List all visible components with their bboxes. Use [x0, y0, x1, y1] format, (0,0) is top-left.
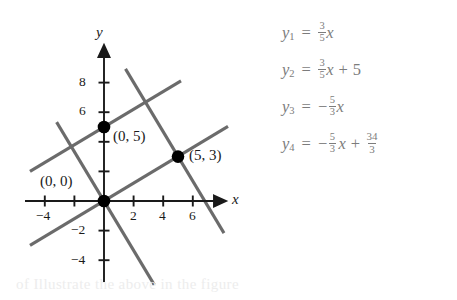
equation-y4-constant-fraction: 34 3	[366, 131, 379, 154]
y-axis-arrow	[99, 45, 110, 57]
equation-y1: y1 = 3 5 x	[282, 14, 457, 51]
equation-y4-coefficient-fraction: 5 3	[329, 132, 336, 154]
equation-y3-negative-sign: −	[318, 97, 327, 117]
x-axis-label: x	[232, 191, 239, 208]
equation-y2-operator: +	[338, 60, 347, 80]
equation-y3-variable: y	[282, 97, 289, 117]
equation-y2-relation: =	[302, 60, 311, 80]
fraction-numerator: 3	[318, 58, 325, 69]
equation-y2-coefficient-fraction: 3 5	[318, 58, 325, 80]
point-label-0-5: (0, 5)	[113, 128, 146, 145]
fraction-numerator: 3	[318, 21, 325, 32]
point-label-origin: (0, 0)	[40, 173, 73, 190]
page-bleed-through-text: of Illustrate the above in the figure	[16, 276, 446, 298]
equation-y1-subscript: 1	[289, 31, 294, 42]
equation-y4-variable: y	[282, 134, 289, 154]
fraction-numerator: 34	[366, 131, 379, 142]
y-axis-label: y	[96, 24, 103, 41]
fraction-denominator: 5	[318, 32, 325, 44]
y-tick-label-neg2: −2	[71, 222, 85, 238]
equation-y4-operator: +	[351, 134, 360, 154]
equation-y3-term-variable: x	[336, 97, 343, 117]
x-tick-label-6: 6	[189, 208, 196, 224]
equation-list: y1 = 3 5 x y2 = 3 5 x + 5 y3 = − 5 3 x y…	[282, 14, 457, 162]
equation-y2-subscript: 2	[289, 68, 294, 79]
fraction-numerator: 5	[329, 132, 336, 143]
point-origin	[98, 195, 111, 208]
fraction-denominator: 3	[368, 143, 376, 155]
equation-y4-term-variable: x	[338, 134, 345, 154]
equation-y3-relation: =	[302, 97, 311, 117]
point-label-5-3: (5, 3)	[189, 147, 222, 164]
equation-y3-coefficient-fraction: 5 3	[329, 95, 336, 117]
x-tick-label-4: 4	[159, 208, 166, 224]
fraction-denominator: 3	[329, 143, 336, 155]
equation-y3-subscript: 3	[289, 105, 294, 116]
equation-y2-variable: y	[282, 60, 289, 80]
x-tick-label-2: 2	[130, 208, 137, 224]
y-tick-label-8: 8	[79, 74, 86, 90]
equation-y4-negative-sign: −	[318, 134, 327, 154]
point-0-5	[98, 121, 111, 134]
equation-y1-term-variable: x	[326, 23, 333, 43]
equation-y1-relation: =	[302, 23, 311, 43]
equation-y1-coefficient-fraction: 3 5	[318, 21, 325, 43]
fraction-denominator: 5	[318, 69, 325, 81]
equation-y2-constant: 5	[353, 60, 361, 80]
point-5-3	[172, 150, 185, 163]
equation-y2: y2 = 3 5 x + 5	[282, 51, 457, 88]
equation-y4-subscript: 4	[289, 142, 294, 153]
equation-y4: y4 = − 5 3 x + 34 3	[282, 125, 457, 162]
x-tick-label-neg4: −4	[36, 208, 50, 224]
equation-y4-relation: =	[302, 134, 311, 154]
equation-y3: y3 = − 5 3 x	[282, 88, 457, 125]
y-tick-label-6: 6	[79, 103, 86, 119]
tick-marks	[45, 83, 193, 261]
fraction-denominator: 3	[329, 106, 336, 118]
equation-y2-term-variable: x	[326, 60, 333, 80]
fraction-numerator: 5	[329, 95, 336, 106]
equation-y1-variable: y	[282, 23, 289, 43]
x-axis-arrow	[214, 196, 226, 207]
y-tick-label-neg4: −4	[71, 252, 85, 268]
